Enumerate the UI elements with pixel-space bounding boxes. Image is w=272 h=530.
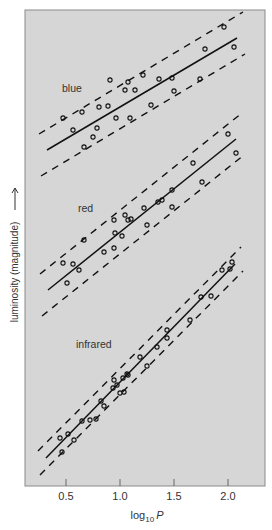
period-luminosity-chart: blueredinfrared 0.51.01.52.0 log10P lumi… <box>0 0 272 530</box>
x-tick-label: 1.5 <box>166 490 181 502</box>
series-label: red <box>78 202 93 214</box>
series-label: infrared <box>76 338 112 350</box>
x-tick-label: 0.5 <box>58 490 73 502</box>
plot-area <box>25 10 265 486</box>
x-tick-label: 2.0 <box>220 490 235 502</box>
svg-text:luminosity (magnitude): luminosity (magnitude) <box>9 222 20 323</box>
series-label: blue <box>62 82 82 94</box>
x-tick-label: 1.0 <box>112 490 127 502</box>
y-axis-label: luminosity (magnitude) <box>9 188 20 322</box>
x-axis-label: log10P <box>131 509 165 524</box>
